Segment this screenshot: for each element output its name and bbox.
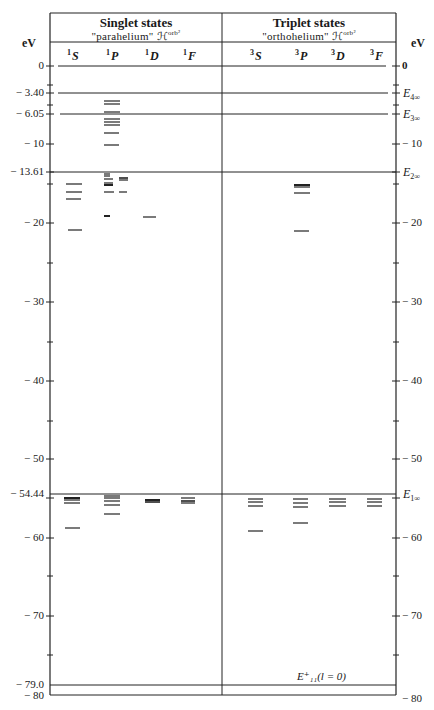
right-tick-60: − 60 <box>402 531 422 543</box>
right-tick-0: 0 <box>402 59 408 71</box>
singlet-subtitle: "parahelium" ℋorb² <box>50 29 222 43</box>
left-tick-3.40: − 3.40 <box>16 86 44 98</box>
triplet-subtitle-sup: orb² <box>343 29 356 37</box>
col-label-1P: 1P <box>106 48 118 64</box>
threshold-lines <box>50 66 396 695</box>
right-tick-10: − 10 <box>402 137 422 149</box>
triplet-subtitle: "orthohelium" ℋorb² <box>222 29 396 43</box>
singlet-subtitle-sup: orb² <box>168 29 181 37</box>
left-tick-54.44: − 54.44 <box>10 487 44 499</box>
col-label-1D: 1D <box>145 48 159 64</box>
e11-plus-label: E⁺₁₁(l = 0) <box>297 670 346 683</box>
levels-3D <box>329 499 346 506</box>
left-tick-50: − 50 <box>24 452 44 464</box>
col-label-3S: 3S <box>250 48 262 64</box>
singlet-subtitle-text: "parahelium" ℋ <box>91 30 167 42</box>
e1-inf-label: E1∞ <box>403 487 420 503</box>
levels-1F <box>181 498 195 503</box>
levels-1S <box>64 184 82 528</box>
right-tick-50: − 50 <box>402 452 422 464</box>
right-tick-30: − 30 <box>402 295 422 307</box>
levels-3S <box>248 499 263 531</box>
e4-inf-label: E4∞ <box>403 86 420 102</box>
helium-energy-diagram <box>0 0 434 710</box>
col-label-3F: 3F <box>370 48 383 64</box>
levels-1P <box>104 101 120 514</box>
right-tick-80: − 80 <box>402 692 422 704</box>
levels-3P <box>293 185 310 523</box>
levels-3F <box>367 499 382 506</box>
left-tick-40: − 40 <box>24 374 44 386</box>
levels-1D <box>119 178 160 502</box>
left-tick-13.61: − 13.61 <box>10 165 44 177</box>
e2-inf-label: E2∞ <box>403 165 420 181</box>
triplet-subtitle-text: "orthohelium" ℋ <box>262 30 343 42</box>
left-tick-10: − 10 <box>24 137 44 149</box>
right-tick-20: − 20 <box>402 216 422 228</box>
unit-left: eV <box>22 36 36 51</box>
right-tick-40: − 40 <box>402 374 422 386</box>
unit-right: eV <box>411 36 425 51</box>
left-tick-20: − 20 <box>24 216 44 228</box>
e3-inf-label: E3∞ <box>403 107 420 123</box>
frame <box>50 13 396 695</box>
right-tick-70: − 70 <box>402 609 422 621</box>
col-label-3D: 3D <box>331 48 345 64</box>
left-tick-70: − 70 <box>24 609 44 621</box>
col-label-1S: 1S <box>67 48 79 64</box>
left-tick-30: − 30 <box>24 295 44 307</box>
col-label-3P: 3P <box>295 48 307 64</box>
left-tick-6.05: − 6.05 <box>16 107 44 119</box>
left-tick-60: − 60 <box>24 531 44 543</box>
left-tick-80: − 80 <box>24 689 44 701</box>
col-label-1F: 1F <box>183 48 196 64</box>
left-tick-0: 0 <box>39 59 45 71</box>
